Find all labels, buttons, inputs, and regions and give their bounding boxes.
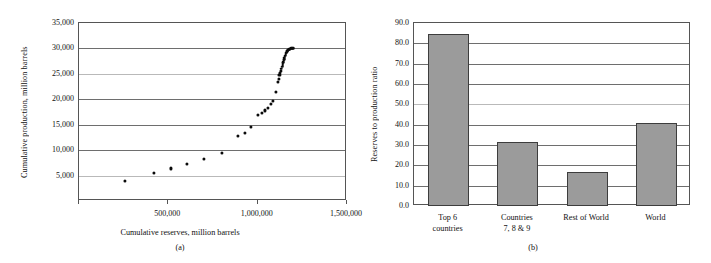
y-tick-label: 30.0 — [373, 140, 409, 149]
data-point — [274, 91, 277, 94]
gridline-15000 — [79, 125, 345, 126]
data-point — [292, 47, 295, 50]
x-tickmark — [346, 200, 347, 204]
y-tick-label: 50.0 — [373, 99, 409, 108]
panel-a-scatter: Cumulative production, million barrels 3… — [0, 0, 360, 263]
bar-1[interactable] — [497, 142, 538, 206]
panel-a-x-axis-label: Cumulative reserves, million barrels — [0, 228, 360, 237]
panel-a-plot-area — [78, 22, 346, 200]
gridline-30000 — [79, 48, 345, 49]
data-point — [236, 134, 239, 137]
y-tick-label: 10.0 — [373, 180, 409, 189]
y-tick-label: 5,000 — [32, 170, 74, 179]
data-point — [202, 157, 205, 160]
y-tick-label: 20.0 — [373, 160, 409, 169]
x-tickmark-origin — [78, 200, 79, 204]
y-tick-label: 15,000 — [32, 119, 74, 128]
y-tick-label: 60.0 — [373, 79, 409, 88]
bar-2[interactable] — [567, 172, 608, 206]
category-label-line2: 7, 8 & 9 — [501, 224, 533, 235]
data-point — [220, 152, 223, 155]
x-tick-label: 1,000,000 — [241, 209, 273, 218]
category-label-0: Top 6countries — [433, 213, 463, 234]
panel-a-caption: (a) — [0, 243, 360, 252]
y-tick-label: 20,000 — [32, 94, 74, 103]
x-tick-label: 500,000 — [154, 209, 180, 218]
category-label-line1: Rest of World — [563, 213, 609, 224]
data-point — [250, 126, 253, 129]
category-label-line2: countries — [433, 224, 463, 235]
y-tick-label: 35,000 — [32, 18, 74, 27]
data-point — [124, 179, 127, 182]
data-point — [244, 131, 247, 134]
panel-b-plot-area — [413, 22, 690, 205]
category-label-line1: World — [645, 213, 665, 224]
y-tick-label: 90.0 — [373, 18, 409, 27]
category-label-line1: Top 6 — [433, 213, 463, 224]
data-point — [256, 114, 259, 117]
y-tick-label: 40.0 — [373, 119, 409, 128]
panel-a-y-axis-label: Cumulative production, million barrels — [20, 16, 29, 208]
gridline-25000 — [79, 74, 345, 75]
bar-3[interactable] — [636, 123, 677, 206]
y-tick-label: 25,000 — [32, 68, 74, 77]
y-tick-label: 80.0 — [373, 38, 409, 47]
data-point — [152, 172, 155, 175]
data-point — [266, 106, 269, 109]
y-tick-label: 0.0 — [373, 201, 409, 210]
category-label-line1: Countries — [501, 213, 533, 224]
panel-b-caption: (b) — [355, 243, 711, 252]
data-point — [272, 99, 275, 102]
data-point — [277, 77, 280, 80]
data-point — [260, 111, 263, 114]
x-tickmark — [167, 200, 168, 204]
gridline-10000 — [79, 150, 345, 151]
data-point — [170, 167, 173, 170]
gridline-5000 — [79, 176, 345, 177]
panel-b-bar-chart: Reserves to production ratio 90.080.070.… — [355, 0, 711, 263]
x-tickmark — [257, 200, 258, 204]
category-label-1: Countries7, 8 & 9 — [501, 213, 533, 234]
gridline-20000 — [79, 99, 345, 100]
category-label-2: Rest of World — [563, 213, 609, 224]
y-tick-label: 30,000 — [32, 43, 74, 52]
data-point — [269, 103, 272, 106]
y-tick-label: 10,000 — [32, 145, 74, 154]
data-point — [263, 109, 266, 112]
bar-0[interactable] — [428, 34, 469, 206]
figure-container: Cumulative production, million barrels 3… — [0, 0, 711, 263]
data-point — [185, 162, 188, 165]
y-tick-label: 70.0 — [373, 58, 409, 67]
category-label-3: World — [645, 213, 665, 224]
data-point — [276, 80, 279, 83]
